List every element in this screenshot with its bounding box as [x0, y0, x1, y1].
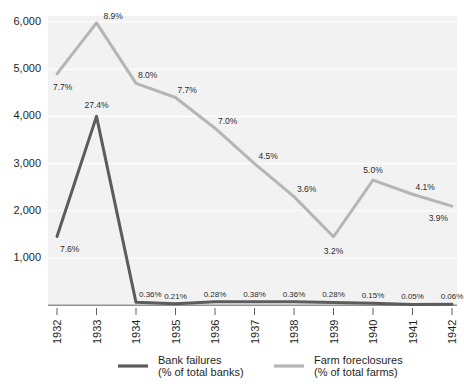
x-tick-label-1936: 1936: [209, 320, 221, 344]
bank-point-label-1938: 0.36%: [283, 290, 306, 299]
farm-point-label-1940: 5.0%: [363, 165, 383, 175]
x-tick-label-1938: 1938: [288, 320, 300, 344]
line-chart: 1,0002,0003,0004,0005,0006,000 193219331…: [0, 0, 464, 390]
farm-point-label-1936: 7.0%: [218, 116, 238, 126]
x-tick-label-1942: 1942: [446, 320, 458, 344]
y-tick-label-3000: 3,000: [13, 157, 41, 169]
x-tick-label-1939: 1939: [328, 320, 340, 344]
x-tick-label-1940: 1940: [367, 320, 379, 344]
y-tick-label-4000: 4,000: [13, 109, 41, 121]
y-tick-label-2000: 2,000: [13, 204, 41, 216]
bank-point-label-1936: 0.28%: [204, 290, 227, 299]
y-tick-label-6000: 6,000: [13, 15, 41, 27]
bank-point-label-1932: 7.6%: [60, 244, 80, 254]
legend-label-name-1: Farm foreclosures: [314, 354, 403, 366]
bank-point-label-1941: 0.05%: [401, 292, 424, 301]
farm-point-label-1937: 4.5%: [259, 151, 279, 161]
y-tick-label-5000: 5,000: [13, 62, 41, 74]
legend-label-unit-0: (% of total banks): [158, 366, 244, 378]
x-tick-label-1933: 1933: [91, 320, 103, 344]
farm-point-label-1938: 3.6%: [297, 184, 317, 194]
x-tick-label-1935: 1935: [170, 320, 182, 344]
x-tick-label-1941: 1941: [407, 320, 419, 344]
farm-point-label-1942: 3.9%: [429, 213, 449, 223]
farm-point-label-1941: 4.1%: [416, 182, 436, 192]
y-axis-tick-labels: 1,0002,0003,0004,0005,0006,000: [13, 15, 41, 263]
bank-point-label-1933: 27.4%: [84, 100, 109, 110]
bank-point-label-1940: 0.15%: [362, 291, 385, 300]
bank-point-label-1939: 0.28%: [322, 290, 345, 299]
farm-point-label-1933: 8.9%: [104, 11, 124, 21]
bank-point-label-1935: 0.21%: [164, 292, 187, 301]
chart-container: 1,0002,0003,0004,0005,0006,000 193219331…: [0, 0, 464, 390]
x-tick-label-1934: 1934: [130, 320, 142, 344]
farm-point-label-1934: 8.0%: [138, 70, 158, 80]
legend-label-name-0: Bank failures: [158, 354, 222, 366]
farm-point-label-1932: 7.7%: [53, 82, 73, 92]
x-axis-tick-labels: 1932193319341935193619371938193919401941…: [51, 320, 458, 344]
bank-point-label-1942: 0.06%: [441, 292, 464, 301]
farm-point-label-1939: 3.2%: [324, 246, 344, 256]
y-tick-label-1000: 1,000: [13, 251, 41, 263]
x-axis-tickmarks: [57, 308, 452, 315]
x-tick-label-1937: 1937: [249, 320, 261, 344]
chart-legend: Bank failures(% of total banks)Farm fore…: [118, 354, 403, 378]
x-tick-label-1932: 1932: [51, 320, 63, 344]
bank-point-label-1934: 0.36%: [139, 290, 162, 299]
farm-point-label-1935: 7.7%: [178, 85, 198, 95]
bank-point-label-1937: 0.38%: [243, 290, 266, 299]
legend-label-unit-1: (% of total farms): [314, 366, 398, 378]
